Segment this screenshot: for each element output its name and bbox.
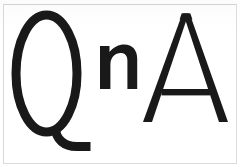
qna-wordmark: QnA [0, 0, 240, 167]
letter-q-bowl [16, 15, 77, 132]
letter-a-left-stroke [143, 14, 189, 123]
letter-a-crossbar [162, 89, 211, 95]
wordmark-canvas: QnA QnA [0, 0, 240, 167]
letter-a [143, 14, 228, 123]
letter-a-right-stroke [183, 14, 228, 123]
letter-n-shape [100, 45, 137, 89]
letter-n [100, 45, 137, 89]
letter-q [16, 15, 91, 147]
letter-a-apex [180, 14, 193, 20]
